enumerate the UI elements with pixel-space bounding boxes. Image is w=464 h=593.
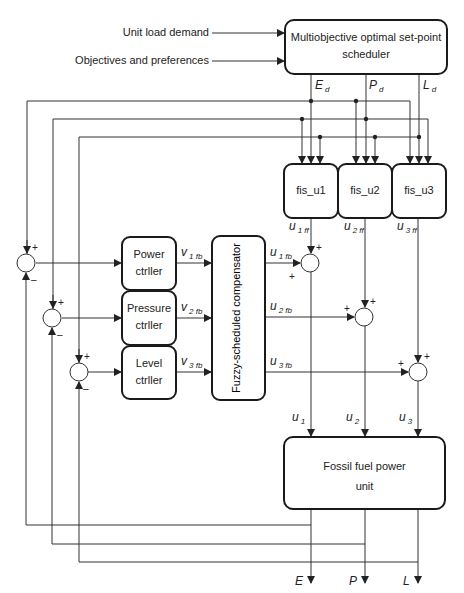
u3-label: u3: [399, 410, 412, 426]
setpoint-ed-label: Ed: [315, 78, 329, 94]
sign-plus: +: [84, 351, 90, 362]
output-l-label: L: [403, 574, 410, 588]
sign-minus: –: [83, 383, 89, 394]
compensator-label: Fuzzy-scheduled compensator: [230, 238, 246, 398]
fis-u2-label: fis_u2: [338, 184, 392, 196]
power-controller-label: Power ctrller: [122, 246, 176, 280]
output-e-label: E: [295, 574, 303, 588]
output-p-label: P: [349, 574, 357, 588]
plant-label: Fossil fuel power unit: [284, 456, 445, 496]
sum-junction-u3: [409, 363, 427, 381]
sign-plus: +: [32, 242, 38, 253]
sign-plus: +: [424, 351, 430, 362]
sign-plus: +: [344, 303, 350, 314]
level-controller-label: Level ctrller: [122, 355, 176, 389]
setpoint-pd-label: Pd: [369, 78, 383, 94]
u2-label: u2: [346, 410, 359, 426]
sign-plus: +: [58, 297, 64, 308]
sum-junction-level: [70, 363, 88, 381]
u1-label: u1: [292, 410, 305, 426]
sign-plus: +: [316, 242, 322, 253]
sign-plus: +: [370, 296, 376, 307]
sign-minus: –: [57, 329, 63, 340]
v1fb-label: v1 fb: [181, 245, 202, 261]
sum-junction-power: [17, 254, 35, 272]
pressure-controller-label: Pressure ctrller: [122, 300, 176, 334]
sum-junction-pressure: [43, 309, 61, 327]
u2ff-label: u2 ff: [344, 219, 364, 235]
sum-junction-u1: [301, 254, 319, 272]
u3fb-label: u3 fb: [270, 354, 292, 370]
unit-load-demand-label: Unit load demand: [123, 26, 209, 38]
sign-plus: +: [289, 271, 295, 282]
setpoint-ld-label: Ld: [423, 78, 436, 94]
v2fb-label: v2 fb: [181, 300, 202, 316]
scheduler-label: Multiobjective optimal set-point schedul…: [285, 29, 447, 63]
fis-u3-label: fis_u3: [392, 184, 446, 196]
v3fb-label: v3 fb: [181, 354, 202, 370]
u2fb-label: u2 fb: [270, 299, 292, 315]
u1fb-label: u1 fb: [270, 245, 292, 261]
u3ff-label: u3 ff: [397, 219, 417, 235]
objectives-label: Objectives and preferences: [75, 54, 209, 66]
sign-plus: +: [398, 358, 404, 369]
sum-junction-u2: [355, 308, 373, 326]
fis-u1-label: fis_u1: [284, 184, 338, 196]
u1ff-label: u1 ff: [289, 219, 309, 235]
sign-minus: –: [31, 274, 37, 285]
